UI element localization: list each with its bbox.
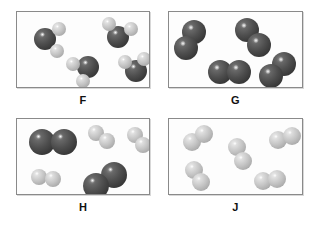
- atom-specular-highlight: [128, 25, 131, 28]
- atom-specular-highlight: [36, 134, 42, 139]
- atom-light: [76, 74, 90, 88]
- atom-specular-highlight: [190, 165, 194, 169]
- panel-label-g: G: [168, 94, 303, 106]
- atom-specular-highlight: [259, 176, 263, 180]
- atom-specular-highlight: [188, 25, 193, 30]
- atom-specular-highlight: [49, 174, 53, 177]
- atom-specular-highlight: [180, 41, 185, 46]
- atom-specular-highlight: [197, 177, 201, 181]
- atom-light: [52, 22, 66, 36]
- atom-light: [283, 127, 301, 145]
- atom-specular-highlight: [108, 167, 114, 172]
- atom-specular-highlight: [70, 60, 73, 63]
- atom-specular-highlight: [253, 38, 258, 43]
- atom-specular-highlight: [265, 69, 270, 74]
- particle-diagram-figure: FGHJ: [0, 0, 315, 227]
- atom-light: [192, 173, 210, 191]
- atom-specular-highlight: [273, 174, 277, 178]
- panel-h-canvas: [17, 119, 149, 194]
- atom-specular-highlight: [113, 30, 118, 34]
- atom-dark: [174, 36, 198, 60]
- atom-specular-highlight: [54, 47, 57, 50]
- panel-label-h: H: [16, 201, 150, 213]
- atom-specular-highlight: [58, 134, 64, 139]
- atom-light: [124, 22, 138, 36]
- atom-specular-highlight: [122, 58, 125, 61]
- atom-specular-highlight: [92, 128, 96, 131]
- atom-specular-highlight: [35, 172, 39, 175]
- panel-g-canvas: [169, 12, 302, 87]
- atom-specular-highlight: [233, 65, 238, 70]
- panel-f: [16, 11, 150, 88]
- atom-specular-highlight: [131, 130, 135, 133]
- atom-specular-highlight: [103, 136, 107, 139]
- atom-specular-highlight: [233, 142, 237, 146]
- atom-light: [102, 17, 116, 31]
- atom-light: [137, 52, 150, 66]
- atom-specular-highlight: [278, 57, 283, 62]
- panel-g: [168, 11, 303, 88]
- atom-light: [66, 57, 80, 71]
- atom-specular-highlight: [40, 32, 45, 36]
- atom-dark: [259, 64, 283, 88]
- atom-light: [45, 171, 61, 187]
- atom-specular-highlight: [188, 137, 192, 141]
- atom-specular-highlight: [80, 77, 83, 80]
- panel-h: [16, 118, 150, 195]
- panel-j-canvas: [169, 119, 302, 194]
- atom-specular-highlight: [214, 65, 219, 70]
- atom-specular-highlight: [90, 178, 96, 183]
- atom-light: [99, 133, 115, 149]
- atom-specular-highlight: [141, 55, 144, 58]
- atom-specular-highlight: [106, 20, 109, 23]
- atom-light: [135, 137, 150, 153]
- atom-specular-highlight: [288, 131, 292, 135]
- atom-dark: [51, 129, 77, 155]
- atom-specular-highlight: [139, 140, 143, 143]
- atom-specular-highlight: [274, 135, 278, 139]
- panel-j: [168, 118, 303, 195]
- atom-specular-highlight: [239, 156, 243, 160]
- atom-specular-highlight: [241, 23, 246, 28]
- atom-light: [50, 44, 64, 58]
- atom-specular-highlight: [56, 25, 59, 28]
- atom-light: [118, 55, 132, 69]
- atom-light: [268, 170, 286, 188]
- atom-light: [234, 152, 252, 170]
- atom-light: [195, 125, 213, 143]
- panel-label-j: J: [168, 201, 303, 213]
- atom-specular-highlight: [83, 60, 88, 64]
- atom-dark: [83, 173, 109, 195]
- atom-dark: [227, 60, 251, 84]
- atom-specular-highlight: [131, 64, 136, 68]
- atom-dark: [247, 33, 271, 57]
- atom-specular-highlight: [200, 129, 204, 133]
- panel-f-canvas: [17, 12, 149, 87]
- panel-label-f: F: [16, 94, 150, 106]
